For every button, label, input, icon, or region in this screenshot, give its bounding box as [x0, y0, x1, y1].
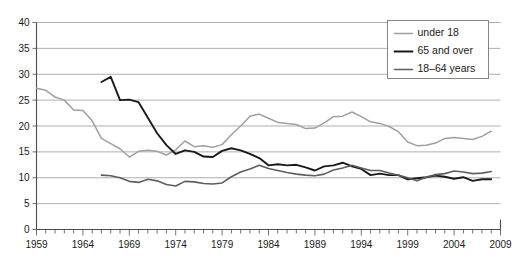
x-axis-label-1964: 1964	[72, 239, 95, 250]
x-axis-label-1999: 1999	[397, 239, 420, 250]
chart-canvas: 0510152025303540195919641969197419791984…	[0, 0, 514, 259]
y-axis-label-10: 10	[18, 172, 30, 183]
x-axis-label-1974: 1974	[165, 239, 188, 250]
x-axis-label-1969: 1969	[118, 239, 141, 250]
x-axis-label-1984: 1984	[257, 239, 280, 250]
y-axis-label-0: 0	[24, 224, 30, 235]
y-axis-label-5: 5	[24, 198, 30, 209]
x-axis-label-2004: 2004	[443, 239, 466, 250]
series-line-under-18	[37, 88, 492, 157]
x-axis-label-1959: 1959	[25, 239, 48, 250]
y-axis-label-35: 35	[18, 43, 30, 54]
y-axis-label-25: 25	[18, 95, 30, 106]
x-axis-label-2009: 2009	[489, 239, 512, 250]
poverty-rate-line-chart: 0510152025303540195919641969197419791984…	[0, 0, 514, 259]
x-axis-label-1979: 1979	[211, 239, 234, 250]
y-axis-label-30: 30	[18, 69, 30, 80]
y-axis-label-40: 40	[18, 17, 30, 28]
x-axis-label-1989: 1989	[304, 239, 327, 250]
legend-label-2: 18–64 years	[418, 62, 476, 74]
y-axis-label-15: 15	[18, 146, 30, 157]
series-line-18-64-years	[101, 165, 491, 186]
x-axis-label-1994: 1994	[350, 239, 373, 250]
series-line-65-and-over	[101, 77, 491, 181]
legend-label-0: under 18	[418, 26, 460, 38]
legend-label-1: 65 and over	[418, 44, 474, 56]
y-axis-label-20: 20	[18, 121, 30, 132]
